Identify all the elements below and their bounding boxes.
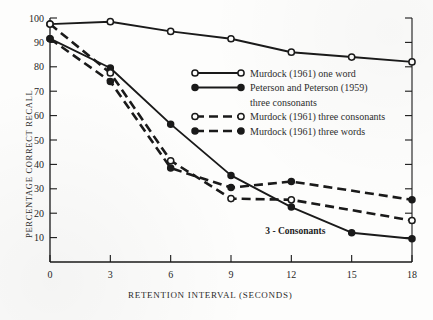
data-point [107, 78, 113, 84]
y-axis-title: PERCENTAGE CORRECT RECALL [24, 90, 34, 238]
data-point [107, 70, 113, 76]
legend-marker [192, 85, 198, 91]
legend-marker [192, 128, 198, 134]
data-point [409, 197, 415, 203]
y-tick-label: 50 [34, 135, 44, 146]
y-tick-label: 40 [34, 159, 44, 170]
y-tick-label: 90 [34, 37, 44, 48]
data-point [228, 36, 234, 42]
y-tick-label: 100 [29, 13, 44, 24]
data-point [409, 236, 415, 242]
legend-label: Peterson and Peterson (1959) [250, 82, 367, 94]
y-tick-label: 30 [34, 183, 44, 194]
data-point [168, 28, 174, 34]
axes-frame [50, 18, 412, 262]
data-point [409, 217, 415, 223]
data-point [349, 54, 355, 60]
x-tick-label: 3 [108, 269, 113, 280]
data-point [47, 21, 53, 27]
x-tick-label: 6 [168, 269, 173, 280]
x-tick-label: 9 [229, 269, 234, 280]
legend-label: three consonants [250, 97, 317, 108]
legend-marker [192, 70, 198, 76]
chart-annotation: 3 - Consonants [265, 226, 325, 236]
legend-label: Murdock (1961) three consonants [250, 111, 385, 123]
legend-marker [238, 85, 244, 91]
x-tick-group: 0369121518 [48, 255, 418, 280]
y-tick-label: 20 [34, 208, 44, 219]
x-tick-label: 15 [347, 269, 357, 280]
data-point [107, 19, 113, 25]
annotation-layer: 3 - Consonants [265, 226, 325, 236]
legend-label: Murdock (1961) one word [250, 68, 356, 80]
line-chart: 102030405060708090100 0369121518 3 - Con… [0, 0, 433, 320]
data-point [288, 204, 294, 210]
data-point [349, 230, 355, 236]
legend: Murdock (1961) one wordPeterson and Pete… [192, 68, 385, 138]
data-point [168, 121, 174, 127]
legend-marker [238, 113, 244, 119]
y-tick-label: 10 [34, 232, 44, 243]
data-point [288, 49, 294, 55]
legend-marker [192, 113, 198, 119]
data-point [168, 165, 174, 171]
y-tick-label: 80 [34, 61, 44, 72]
y-tick-label: 60 [34, 110, 44, 121]
chart-page: 102030405060708090100 0369121518 3 - Con… [0, 0, 433, 320]
x-axis-title: RETENTION INTERVAL (SECONDS) [128, 290, 292, 300]
data-point [288, 178, 294, 184]
x-tick-label: 18 [407, 269, 417, 280]
data-point [228, 195, 234, 201]
data-point [228, 172, 234, 178]
legend-marker [238, 70, 244, 76]
legend-label: Murdock (1961) three words [250, 126, 365, 138]
x-tick-label: 0 [48, 269, 53, 280]
data-point [288, 197, 294, 203]
y-tick-label: 70 [34, 86, 44, 97]
x-tick-label: 12 [286, 269, 296, 280]
legend-marker [238, 128, 244, 134]
data-point [47, 36, 53, 42]
data-point [409, 59, 415, 65]
data-point [228, 185, 234, 191]
